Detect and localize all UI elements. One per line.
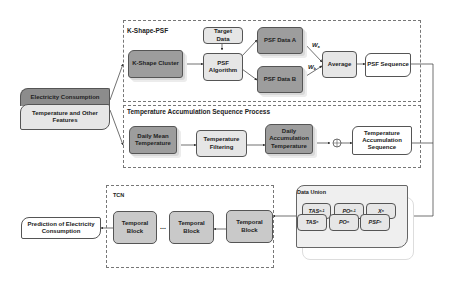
- psf-sequence-node: PSF Sequence: [365, 53, 411, 77]
- kshape-psf-title: K-Shape-PSF: [127, 27, 168, 34]
- data-union-tas-current: TASn: [297, 214, 327, 231]
- temperature-features-input: Temperature and Other Features: [20, 104, 110, 130]
- daily-accumulation-temperature-node: Daily Accumulation Temperature: [265, 124, 313, 154]
- temperature-filtering-node: Temperature Filtering: [196, 130, 247, 157]
- temperature-accumulation-sequence-node: Temperature Accumulation Sequence: [352, 126, 412, 155]
- psf-data-a-node: PSF Data A: [257, 27, 303, 54]
- data-union-po-current: POn: [329, 214, 359, 231]
- weight-b-label: Wb: [308, 64, 316, 71]
- ellipsis-label: ...: [160, 223, 166, 230]
- psf-algorithm-node: PSF Algorithm: [203, 53, 243, 81]
- temporal-block-3: Temporal Block: [226, 210, 273, 243]
- data-union-title: Data Union: [297, 189, 326, 195]
- temporal-block-2: Temporal Block: [169, 211, 214, 244]
- target-data-node: Target Data: [203, 27, 243, 44]
- psf-data-b-node: PSF Data B: [257, 66, 303, 93]
- prediction-output-node: Prediction of Electricity Consumption: [21, 217, 101, 239]
- average-node: Average: [322, 51, 357, 78]
- data-union-psf-current: PSFn: [360, 214, 390, 231]
- kshape-cluster-node: K-Shape Cluster: [128, 50, 183, 78]
- tcn-title: TCN: [113, 192, 124, 198]
- weight-a-label: Wa: [312, 42, 320, 49]
- temperature-process-title: Temperature Accumulation Sequence Proces…: [127, 108, 270, 115]
- daily-mean-temperature-node: Daily Mean Temperature: [129, 126, 177, 154]
- temporal-block-1: Temporal Block: [113, 211, 157, 244]
